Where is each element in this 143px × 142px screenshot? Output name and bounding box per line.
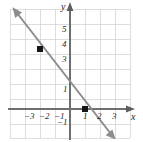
y-tick-label-4: 4 <box>62 40 67 49</box>
x-tick-label-2: 2 <box>97 112 102 121</box>
axis-arrowheads <box>67 2 135 112</box>
y-axis-arrow-icon <box>67 2 74 11</box>
y-tick-label--1: −1 <box>57 118 68 127</box>
x-tick-label--3: −3 <box>24 112 35 121</box>
y-tick-label-1: 1 <box>63 85 68 94</box>
x-axis-label: x <box>131 112 135 122</box>
x-tick-label-3: 3 <box>112 112 117 121</box>
y-axis-label: y <box>61 2 65 12</box>
y-tick-label-3: 3 <box>62 55 67 64</box>
coordinate-graph: −3 −2 −1 1 2 3 5 4 3 1 −1 x y <box>0 0 143 142</box>
x-tick-label-1: 1 <box>83 112 88 121</box>
y-tick-label-5: 5 <box>62 25 67 34</box>
graph-canvas <box>0 0 143 142</box>
x-tick-label--2: −2 <box>39 112 50 121</box>
data-point-marker <box>37 46 43 52</box>
